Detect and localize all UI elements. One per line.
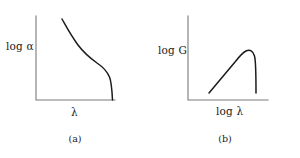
panel-caption-b: (b)	[150, 134, 300, 144]
chart-panel-b: log G log λ (b)	[150, 0, 300, 158]
y-axis-label-a: log α	[6, 41, 34, 52]
x-axis-label-b: log λ	[216, 106, 243, 117]
panel-caption-a: (a)	[0, 134, 150, 144]
chart-panel-a: log α λ (a)	[0, 0, 150, 158]
curve-photoconductive-gain	[209, 50, 256, 93]
figure-container: log α λ (a) log G log λ (b)	[0, 0, 300, 158]
axis-spines-a	[36, 16, 115, 100]
x-axis-label-a: λ	[71, 107, 78, 118]
y-axis-label-b: log G	[158, 45, 187, 56]
curve-absorption-alpha	[62, 19, 113, 100]
